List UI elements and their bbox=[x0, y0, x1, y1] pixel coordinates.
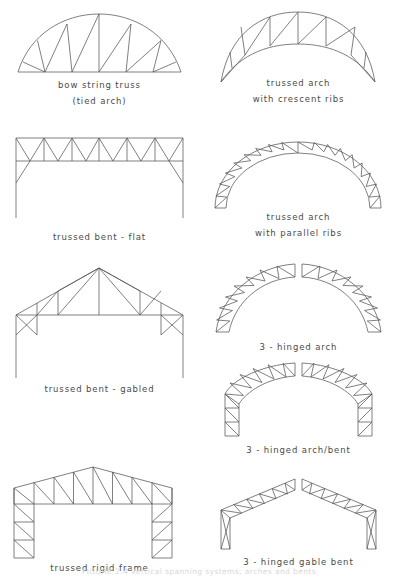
figure-cell-trussed-rigid-frame: trussed rigid frame bbox=[0, 465, 199, 577]
figure-grid: bow string truss (tied arch) bbox=[0, 0, 398, 577]
figure-cell-three-hinged-arch-bent: 3 - hinged arch/bent bbox=[199, 360, 398, 465]
figure-cell-three-hinged-gable-bent: 3 - hinged gable bent bbox=[199, 465, 398, 577]
caption-trussed-bent-flat: trussed bent - flat bbox=[0, 232, 199, 242]
figure-cell-trussed-arch-crescent-ribs: trussed arch with crescent ribs bbox=[199, 0, 398, 130]
figure-cell-trussed-bent-gabled: trussed bent - gabled bbox=[0, 260, 199, 360]
figure-cell-bow-string-truss: bow string truss (tied arch) bbox=[0, 0, 199, 130]
trussed-rigid-frame-diagram bbox=[0, 465, 199, 558]
caption-three-hinged-gable-bent: 3 - hinged gable bent bbox=[199, 557, 398, 567]
figure-footer-note: FIGURE 2.4 Vertical spanning systems; ar… bbox=[0, 567, 398, 577]
caption-three-hinged-arch-bent: 3 - hinged arch/bent bbox=[199, 445, 398, 455]
caption-trussed-arch-parallel-line2: with parallel ribs bbox=[199, 228, 398, 238]
caption-trussed-arch-crescent-line2: with crescent ribs bbox=[199, 94, 398, 104]
figure-cell-trussed-bent-flat: trussed bent - flat bbox=[0, 130, 199, 260]
caption-bow-string-truss-line1: bow string truss bbox=[0, 80, 199, 90]
three-hinged-arch-bent-diagram bbox=[199, 360, 398, 440]
three-hinged-arch-diagram bbox=[199, 260, 398, 338]
trussed-arch-parallel-ribs-diagram bbox=[199, 130, 398, 225]
figure-sheet: bow string truss (tied arch) bbox=[0, 0, 398, 577]
figure-cell-trussed-arch-parallel-ribs: trussed arch with parallel ribs bbox=[199, 130, 398, 260]
caption-three-hinged-arch: 3 - hinged arch bbox=[199, 342, 398, 352]
three-hinged-gable-bent-diagram bbox=[199, 465, 398, 553]
caption-trussed-arch-parallel-line1: trussed arch bbox=[199, 212, 398, 222]
figure-cell-three-hinged-arch: 3 - hinged arch bbox=[199, 260, 398, 360]
bow-string-truss-diagram bbox=[0, 0, 199, 92]
caption-trussed-arch-crescent-line1: trussed arch bbox=[199, 78, 398, 88]
figure-cell-spacer-left bbox=[0, 360, 199, 465]
trussed-bent-flat-diagram bbox=[0, 130, 199, 225]
caption-bow-string-truss-line2: (tied arch) bbox=[0, 96, 199, 106]
